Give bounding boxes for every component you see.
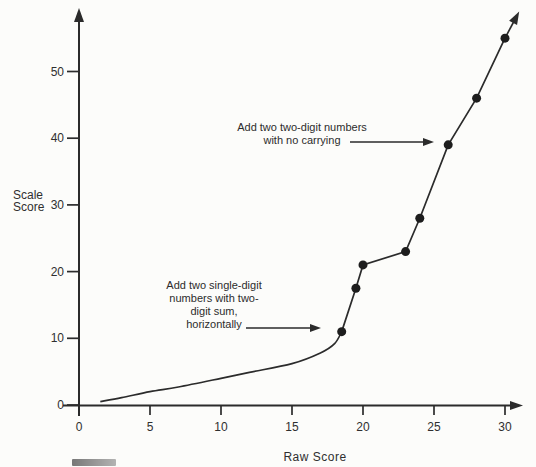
- y-tick-label: 0: [57, 398, 64, 412]
- figure-page: 05101520253001020304050 Scale Score Raw …: [0, 0, 536, 467]
- data-point: [444, 140, 453, 149]
- y-tick-label: 20: [51, 265, 65, 279]
- cropped-caption-fragment: [72, 459, 116, 466]
- x-tick-label: 20: [356, 420, 370, 434]
- data-point: [401, 247, 410, 256]
- raw-to-scale-score-chart: 05101520253001020304050: [0, 0, 536, 467]
- y-tick-label: 10: [51, 331, 65, 345]
- annotation-line: Add two single-digit: [154, 279, 274, 292]
- data-point: [501, 34, 510, 43]
- y-tick-label: 40: [51, 131, 65, 145]
- data-point: [415, 214, 424, 223]
- y-tick-label: 30: [51, 198, 65, 212]
- annotation-line: digit sum,: [154, 305, 274, 318]
- data-point: [351, 284, 360, 293]
- annotation-no-carrying: Add two two-digit numbers with no carryi…: [222, 121, 382, 147]
- data-point: [472, 94, 481, 103]
- x-tick-label: 5: [147, 420, 154, 434]
- x-tick-label: 15: [285, 420, 299, 434]
- x-tick-label: 10: [214, 420, 228, 434]
- x-tick-label: 0: [76, 420, 83, 434]
- data-point: [359, 260, 368, 269]
- y-axis-label: Scale Score: [13, 190, 44, 213]
- y-tick-label: 50: [51, 65, 65, 79]
- annotation-line: with no carrying: [222, 134, 382, 147]
- annotation-line: Add two two-digit numbers: [222, 121, 382, 134]
- annotation-single-digit: Add two single-digit numbers with two- d…: [154, 279, 274, 331]
- x-tick-label: 25: [427, 420, 441, 434]
- annotation-line: numbers with two-: [154, 292, 274, 305]
- annotation-line: horizontally: [154, 318, 274, 331]
- x-tick-label: 30: [498, 420, 512, 434]
- x-axis-label: Raw Score: [265, 450, 365, 464]
- y-axis-label-line: Score: [13, 202, 44, 214]
- data-point: [337, 327, 346, 336]
